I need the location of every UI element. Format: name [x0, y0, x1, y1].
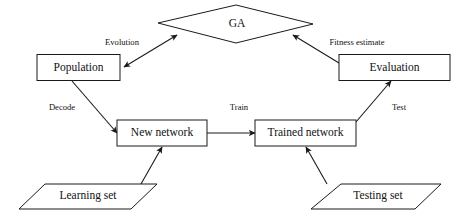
node-trained-network[interactable]: Trained network [255, 120, 356, 146]
diagram-canvas: GA Population Evaluation New network Tra… [0, 0, 465, 224]
edge-label-fitness-estimate: Fitness estimate [329, 37, 384, 47]
evaluation-label: Evaluation [370, 61, 420, 73]
flowchart-diagram: GA Population Evaluation New network Tra… [0, 0, 465, 224]
edge-decode-line [72, 81, 117, 133]
edge-label-train: Train [230, 102, 249, 112]
node-ga[interactable]: GA [158, 5, 313, 43]
node-new-network[interactable]: New network [117, 120, 207, 146]
node-testing-set[interactable]: Testing set [311, 184, 441, 209]
node-learning-set[interactable]: Learning set [19, 184, 157, 209]
new-network-label: New network [131, 126, 194, 138]
learning-set-label: Learning set [59, 189, 117, 202]
ga-label: GA [229, 17, 246, 29]
edge-testing-feed-line [306, 147, 327, 184]
edge-label-decode: Decode [49, 102, 75, 112]
population-label: Population [54, 61, 104, 74]
edge-label-test: Test [392, 102, 407, 112]
testing-set-label: Testing set [353, 189, 403, 202]
node-evaluation[interactable]: Evaluation [339, 55, 450, 81]
trained-network-label: Trained network [268, 126, 344, 138]
edge-learning-feed-line [141, 147, 162, 184]
edge-test-line [356, 81, 391, 122]
node-population[interactable]: Population [37, 55, 120, 81]
edge-label-evolution: Evolution [105, 37, 140, 47]
